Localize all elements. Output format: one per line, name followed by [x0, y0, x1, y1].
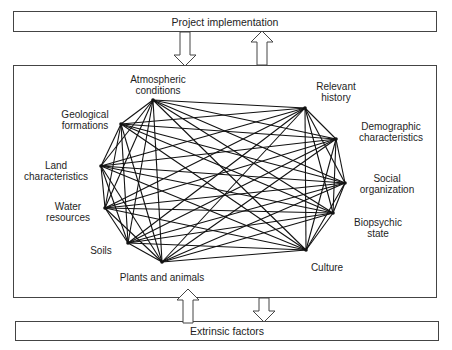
- arrow-up-icon: [251, 31, 273, 65]
- edge-land-demographic: [101, 139, 336, 166]
- label-line: Culture: [305, 262, 349, 273]
- edge-water-social: [105, 183, 345, 208]
- label-water-resources: Water resources: [40, 201, 96, 223]
- node-social: [343, 181, 347, 185]
- edge-water-soils: [105, 208, 128, 243]
- label-geological-formations: Geological formations: [50, 109, 120, 131]
- label-relevant-history: Relevant history: [308, 81, 364, 103]
- label-line: Social: [352, 173, 422, 184]
- label-atmospheric-conditions: Atmospheric conditions: [118, 74, 198, 96]
- label-line: resources: [40, 212, 96, 223]
- label-line: Relevant: [308, 81, 364, 92]
- label-line: Biopsychic: [345, 217, 411, 228]
- label-line: Land: [18, 160, 94, 171]
- edge-culture-biopsychic: [306, 213, 333, 250]
- label-line: Soils: [86, 245, 116, 256]
- node-culture: [304, 248, 308, 252]
- network-edges: [99, 98, 347, 264]
- edge-plants-social: [162, 183, 345, 262]
- label-land-characteristics: Land characteristics: [18, 160, 94, 182]
- node-biopsychic: [331, 211, 335, 215]
- label-line: characteristics: [348, 132, 434, 143]
- edge-land-biopsychic: [101, 166, 333, 213]
- label-line: formations: [50, 120, 120, 131]
- edge-culture-history: [305, 108, 306, 250]
- label-line: conditions: [118, 85, 198, 96]
- label-line: state: [345, 228, 411, 239]
- node-land: [99, 164, 103, 168]
- label-plants-and-animals: Plants and animals: [112, 272, 212, 283]
- label-culture: Culture: [305, 262, 349, 273]
- label-line: Geological: [50, 109, 120, 120]
- edge-social-demographic: [336, 139, 345, 183]
- node-atmospheric: [151, 98, 155, 102]
- node-demographic: [334, 137, 338, 141]
- edge-geological-demographic: [121, 124, 336, 139]
- edge-water-biopsychic: [105, 208, 333, 213]
- diagram-canvas: Project implementation Extrinsic factors…: [0, 0, 452, 350]
- edge-geological-biopsychic: [121, 124, 333, 213]
- edge-biopsychic-history: [305, 108, 333, 213]
- label-social-organization: Social organization: [352, 173, 422, 195]
- label-line: Plants and animals: [112, 272, 212, 283]
- arrow-down-icon: [174, 32, 196, 66]
- edge-social-history: [305, 108, 345, 183]
- edge-culture-demographic: [306, 139, 336, 250]
- label-line: Demographic: [348, 121, 434, 132]
- label-line: history: [308, 92, 364, 103]
- node-water: [103, 206, 107, 210]
- label-line: Atmospheric: [118, 74, 198, 85]
- edge-atmospheric-history: [153, 100, 305, 108]
- label-demographic-characteristics: Demographic characteristics: [348, 121, 434, 143]
- label-line: Water: [40, 201, 96, 212]
- label-biopsychic-state: Biopsychic state: [345, 217, 411, 239]
- node-history: [303, 106, 307, 110]
- arrow-up-icon: [177, 289, 199, 323]
- arrow-down-icon: [253, 298, 275, 322]
- node-plants: [160, 260, 164, 264]
- label-soils: Soils: [86, 245, 116, 256]
- node-soils: [126, 241, 130, 245]
- label-line: organization: [352, 184, 422, 195]
- label-line: characteristics: [18, 171, 94, 182]
